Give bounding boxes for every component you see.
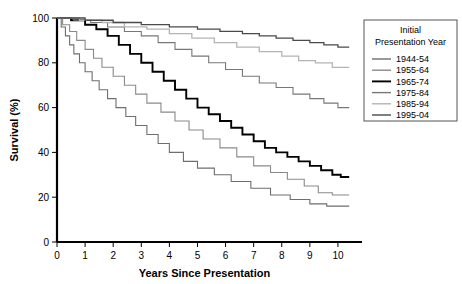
y-tick-label: 20 [38, 192, 50, 203]
y-tick-label: 80 [38, 57, 50, 68]
legend-label-1985-94: 1985-94 [396, 99, 429, 109]
legend-title-line2: Presentation Year [375, 37, 446, 47]
x-tick-label: 9 [307, 250, 313, 261]
x-tick-label: 8 [279, 250, 285, 261]
y-tick-label: 100 [32, 13, 49, 24]
chart-canvas: 020406080100Survival (%)012345678910Year… [0, 0, 462, 284]
legend-label-1955-64: 1955-64 [396, 65, 429, 75]
legend-label-1975-84: 1975-84 [396, 88, 429, 98]
y-axis-title: Survival (%) [8, 98, 20, 161]
x-tick-label: 7 [251, 250, 257, 261]
x-tick-label: 1 [82, 250, 88, 261]
x-tick-label: 10 [332, 250, 344, 261]
series-line-1985-94 [57, 18, 349, 67]
y-tick-label: 40 [38, 147, 50, 158]
series-line-1944-54 [57, 18, 349, 206]
series-line-1965-74 [57, 18, 349, 177]
x-axis-title: Years Since Presentation [139, 267, 271, 279]
x-tick-label: 4 [167, 250, 173, 261]
x-tick-label: 0 [54, 250, 60, 261]
legend-title-line1: Initial [400, 25, 421, 35]
legend-label-1965-74: 1965-74 [396, 77, 429, 87]
survival-chart-figure: 020406080100Survival (%)012345678910Year… [0, 0, 462, 284]
legend-label-1944-54: 1944-54 [396, 54, 429, 64]
x-tick-label: 6 [223, 250, 229, 261]
x-tick-label: 3 [139, 250, 145, 261]
x-tick-label: 2 [110, 250, 116, 261]
y-tick-label: 0 [43, 237, 49, 248]
series-line-1975-84 [57, 18, 349, 108]
y-tick-label: 60 [38, 102, 50, 113]
legend-label-1995-04: 1995-04 [396, 110, 429, 120]
x-tick-label: 5 [195, 250, 201, 261]
